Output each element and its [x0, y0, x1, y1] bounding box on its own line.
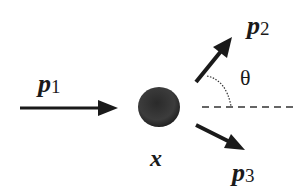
p2-label: p2 — [247, 13, 270, 39]
angle-arc — [207, 76, 231, 106]
p1-label: p1 — [38, 71, 61, 97]
p1-arrow — [20, 100, 118, 116]
vertex-label: x — [150, 146, 162, 170]
p2-arrow — [196, 37, 232, 82]
vertex-circle — [138, 87, 180, 127]
scattering-diagram: p1 p2 θ p3 x — [0, 0, 299, 191]
p3-arrow — [196, 125, 245, 150]
theta-label: θ — [240, 67, 251, 89]
p3-label: p3 — [232, 160, 255, 186]
